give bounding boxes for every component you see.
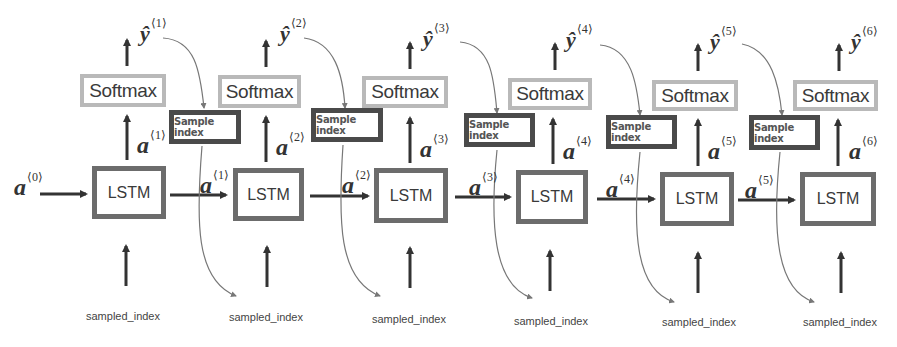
sampled-index-5: sampled_index	[662, 316, 736, 328]
y-hat-base: ŷ	[851, 29, 861, 54]
a-base: a	[276, 134, 288, 160]
transition-a3: a⟨3⟩	[469, 170, 498, 201]
sampled-index-2: sampled_index	[229, 311, 303, 323]
softmax-box-4: Softmax	[508, 78, 592, 110]
a-output-4: a⟨4⟩	[563, 134, 592, 165]
sampled-index-6: sampled_index	[803, 316, 877, 328]
y-hat-4: ŷ⟨4⟩	[566, 22, 593, 53]
a-sup: ⟨6⟩	[862, 134, 878, 148]
y-hat-base: ŷ	[140, 21, 150, 46]
label-a0: a⟨0⟩	[14, 170, 43, 201]
lstm-box-2: LSTM	[233, 168, 304, 221]
y-hat-sup: ⟨5⟩	[721, 24, 737, 38]
a-sup: ⟨3⟩	[482, 170, 498, 184]
a-sup: ⟨4⟩	[576, 134, 592, 148]
lstm-box-6: LSTM	[800, 172, 876, 226]
transition-a4: a⟨4⟩	[606, 172, 635, 203]
lstm-box-5: LSTM	[660, 172, 734, 226]
softmax-box-1: Softmax	[80, 74, 166, 107]
a-sup: ⟨5⟩	[758, 173, 774, 187]
a-output-2: a⟨2⟩	[276, 130, 305, 161]
a-output-6: a⟨6⟩	[849, 134, 878, 165]
a-base: a	[563, 138, 575, 164]
a-base: a	[200, 172, 212, 198]
a-sup: ⟨2⟩	[289, 130, 305, 144]
a-sup: ⟨1⟩	[150, 128, 166, 142]
softmax-box-5: Softmax	[652, 80, 738, 111]
sample-index-box-2: Sample index	[311, 108, 383, 142]
a-base: a	[420, 136, 432, 162]
a-base: a	[137, 132, 149, 158]
a-base: a	[469, 174, 481, 200]
a0-base: a	[14, 174, 26, 200]
sampled-index-3: sampled_index	[372, 313, 446, 325]
y-hat-base: ŷ	[280, 21, 290, 46]
a-base: a	[849, 138, 861, 164]
a-sup: ⟨2⟩	[355, 168, 371, 182]
sample-index-box-4: Sample index	[606, 115, 677, 149]
sample-index-box-1: Sample index	[169, 110, 241, 144]
sampled-index-4: sampled_index	[514, 315, 588, 327]
a-output-3: a⟨3⟩	[420, 132, 449, 163]
y-hat-3: ŷ⟨3⟩	[423, 21, 450, 52]
sampled-index-1: sampled_index	[86, 310, 160, 322]
y-hat-sup: ⟨4⟩	[577, 22, 593, 36]
a-sup: ⟨1⟩	[213, 168, 229, 182]
y-hat-base: ŷ	[423, 26, 433, 51]
y-hat-base: ŷ	[710, 29, 720, 54]
sample-index-box-3: Sample index	[464, 113, 535, 147]
y-hat-1: ŷ⟨1⟩	[140, 16, 167, 47]
transition-a1: a⟨1⟩	[200, 168, 229, 199]
a0-sup: ⟨0⟩	[27, 170, 43, 184]
softmax-box-6: Softmax	[793, 80, 878, 111]
transition-a2: a⟨2⟩	[342, 168, 371, 199]
y-hat-base: ŷ	[566, 27, 576, 52]
a-sup: ⟨3⟩	[433, 132, 449, 146]
transition-a5: a⟨5⟩	[745, 173, 774, 204]
a-base: a	[708, 138, 720, 164]
y-hat-sup: ⟨2⟩	[291, 16, 307, 30]
a-sup: ⟨4⟩	[619, 172, 635, 186]
y-hat-sup: ⟨1⟩	[151, 16, 167, 30]
y-hat-6: ŷ⟨6⟩	[851, 24, 878, 55]
lstm-box-4: LSTM	[516, 170, 588, 224]
sample-index-box-5: Sample index	[749, 115, 820, 150]
a-base: a	[745, 177, 757, 203]
a-sup: ⟨5⟩	[721, 134, 737, 148]
a-base: a	[342, 172, 354, 198]
y-hat-5: ŷ⟨5⟩	[710, 24, 737, 55]
y-hat-sup: ⟨6⟩	[862, 24, 878, 38]
a-base: a	[606, 176, 618, 202]
lstm-box-1: LSTM	[92, 166, 166, 219]
a-output-5: a⟨5⟩	[708, 134, 737, 165]
y-hat-sup: ⟨3⟩	[434, 21, 450, 35]
softmax-box-2: Softmax	[218, 75, 301, 108]
y-hat-2: ŷ⟨2⟩	[280, 16, 307, 47]
lstm-box-3: LSTM	[374, 168, 448, 223]
softmax-box-3: Softmax	[362, 76, 448, 108]
a-output-1: a⟨1⟩	[137, 128, 166, 159]
